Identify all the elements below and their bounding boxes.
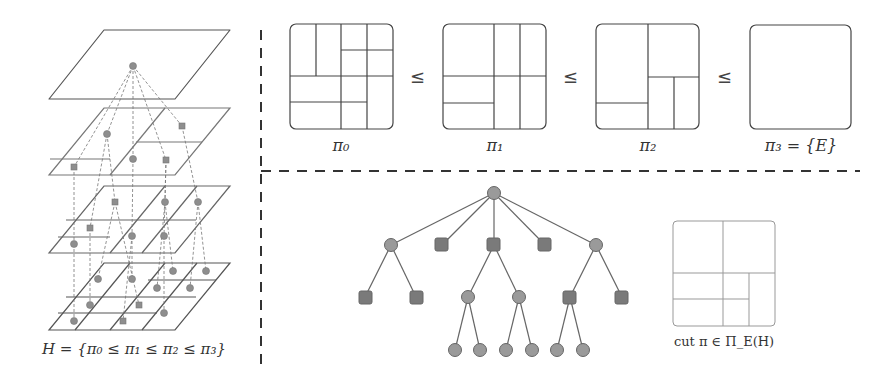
leq-symbol-2: ≤: [563, 66, 578, 87]
figure-canvas: [0, 0, 887, 386]
tree-root: [488, 187, 501, 200]
partition-label-pi2: π₂: [618, 136, 678, 155]
leq-symbol-1: ≤: [410, 66, 425, 87]
hierarchy-edges: [74, 66, 206, 321]
layer-pi3: [49, 30, 230, 99]
cut-caption: cut π ∈ Π_E(H): [664, 334, 784, 349]
hierarchy-caption: H = {π₀ ≤ π₁ ≤ π₂ ≤ π₃}: [34, 340, 234, 358]
partition-pi2: [596, 24, 699, 129]
hierarchy-stack: [49, 30, 230, 330]
leq-symbol-3: ≤: [717, 66, 732, 87]
partition-pi1: [443, 24, 546, 129]
partition-label-pi1: π₁: [465, 136, 525, 155]
cut-partition: [673, 221, 775, 326]
tree-edges: [365, 193, 622, 350]
partition-label-pi0: π₀: [311, 136, 371, 155]
partition-label-pi3: π₃ = {E}: [750, 136, 852, 155]
node-root: [130, 63, 137, 70]
partition-pi0: [290, 24, 393, 129]
partition-pi3: [750, 25, 851, 129]
hierarchy-nodes: [71, 63, 210, 325]
